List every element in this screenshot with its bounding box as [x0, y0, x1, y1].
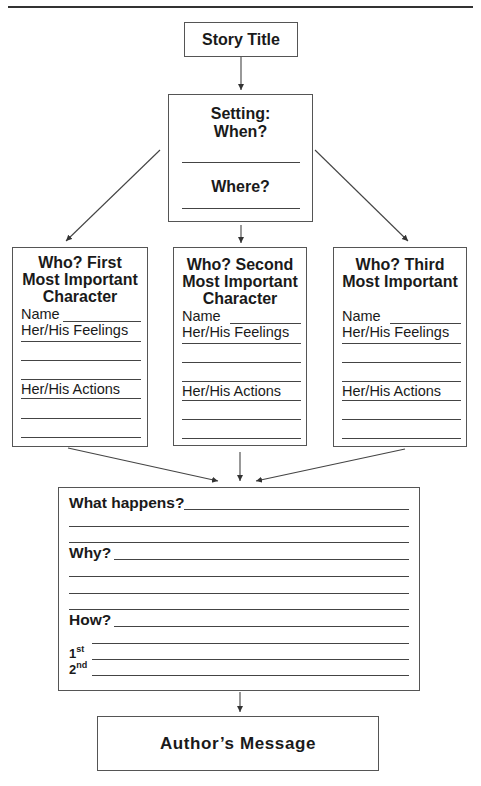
- where-label: Where?: [169, 178, 312, 195]
- feelings-line-2[interactable]: [342, 362, 461, 363]
- actions-line-1[interactable]: [21, 398, 141, 399]
- actions-label: Her/His Actions: [342, 384, 441, 399]
- setting-box: Setting: When? Where?: [168, 94, 313, 222]
- what-happens-label: What happens?: [69, 495, 184, 511]
- why-answer-line-2[interactable]: [69, 576, 409, 577]
- first-step-line[interactable]: [92, 659, 409, 660]
- character-heading-line2: Most Important: [174, 273, 306, 290]
- how-answer-line-1[interactable]: [114, 626, 409, 627]
- feelings-line-3[interactable]: [21, 379, 141, 380]
- character-heading-line1: Who? Second: [174, 256, 306, 273]
- why-answer-line-4[interactable]: [69, 609, 409, 610]
- feelings-line-1[interactable]: [21, 341, 141, 342]
- why-answer-line-1[interactable]: [114, 559, 409, 560]
- feelings-label: Her/His Feelings: [182, 325, 289, 340]
- when-answer-line[interactable]: [182, 162, 300, 163]
- what-answer-line-3[interactable]: [69, 542, 409, 543]
- first-step-label: 1st: [69, 647, 84, 660]
- character-heading-line1: Who? First: [13, 254, 147, 271]
- story-title-box: Story Title: [184, 22, 298, 57]
- where-answer-line[interactable]: [182, 208, 300, 209]
- actions-line-1[interactable]: [182, 400, 301, 401]
- actions-label: Her/His Actions: [21, 382, 120, 397]
- character-heading-line1: Who? Third: [334, 256, 466, 273]
- feelings-line-2[interactable]: [21, 360, 141, 361]
- name-label: Name: [21, 307, 60, 322]
- authors-message-label: Author’s Message: [98, 735, 378, 752]
- name-label: Name: [342, 309, 381, 324]
- plot-box: What happens? Why? How? 1st 2nd: [58, 487, 420, 691]
- what-answer-line-2[interactable]: [69, 526, 409, 527]
- what-answer-line-1[interactable]: [184, 509, 409, 510]
- first-sup: st: [76, 644, 84, 654]
- why-label: Why?: [69, 545, 111, 561]
- character-box-second: Who? Second Most Important Character Nam…: [173, 247, 307, 446]
- feelings-line-3[interactable]: [182, 381, 301, 382]
- feelings-line-1[interactable]: [182, 343, 301, 344]
- second-step-line[interactable]: [92, 675, 409, 676]
- authors-message-box: Author’s Message: [97, 716, 379, 771]
- how-answer-line-2[interactable]: [92, 643, 409, 644]
- character-heading-line2: Most Important: [334, 273, 466, 290]
- actions-line-2[interactable]: [182, 419, 301, 420]
- character-heading-line3: Character: [13, 288, 147, 305]
- actions-line-1[interactable]: [342, 400, 461, 401]
- feelings-label: Her/His Feelings: [342, 325, 449, 340]
- feelings-line-2[interactable]: [182, 362, 301, 363]
- second-step-label: 2nd: [69, 663, 87, 676]
- story-title-label: Story Title: [185, 31, 297, 48]
- feelings-line-3[interactable]: [342, 381, 461, 382]
- second-sup: nd: [76, 660, 87, 670]
- actions-line-3[interactable]: [21, 437, 141, 438]
- feelings-line-1[interactable]: [342, 343, 461, 344]
- actions-line-3[interactable]: [342, 438, 461, 439]
- character-box-third: Who? Third Most Important Name Her/His F…: [333, 247, 467, 447]
- actions-line-2[interactable]: [342, 419, 461, 420]
- setting-heading: Setting:: [169, 105, 312, 122]
- character-box-first: Who? First Most Important Character Name…: [12, 247, 148, 447]
- actions-line-2[interactable]: [21, 418, 141, 419]
- when-label: When?: [169, 123, 312, 140]
- why-answer-line-3[interactable]: [69, 593, 409, 594]
- character-heading-line2: Most Important: [13, 271, 147, 288]
- actions-line-3[interactable]: [182, 438, 301, 439]
- character-heading-line3: Character: [174, 290, 306, 307]
- actions-label: Her/His Actions: [182, 384, 281, 399]
- how-label: How?: [69, 612, 111, 628]
- feelings-label: Her/His Feelings: [21, 323, 128, 338]
- name-label: Name: [182, 309, 221, 324]
